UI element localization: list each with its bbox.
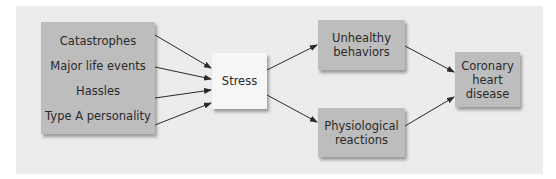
- arrow-stress-to-physiological: [267, 95, 317, 122]
- arrow-stress-to-unhealthy: [267, 45, 317, 70]
- arrow-physiological-to-coronary: [405, 97, 454, 126]
- arrows-layer: [0, 0, 556, 179]
- arrow-type-a-to-stress: [155, 103, 211, 125]
- arrow-unhealthy-to-coronary: [405, 46, 454, 72]
- arrow-hassles-to-stress: [155, 90, 211, 98]
- arrow-catastrophes-to-stress: [155, 35, 211, 68]
- arrow-life-events-to-stress: [155, 67, 211, 79]
